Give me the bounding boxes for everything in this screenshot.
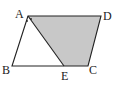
label-b: B [2, 63, 10, 77]
angle-marker-dot [30, 18, 32, 20]
geometry-diagram: A D B E C [0, 0, 119, 86]
label-c: C [89, 63, 97, 77]
label-a: A [15, 7, 24, 21]
label-d: D [103, 9, 112, 23]
angle-marker-dot [26, 20, 28, 22]
label-e: E [61, 69, 68, 83]
